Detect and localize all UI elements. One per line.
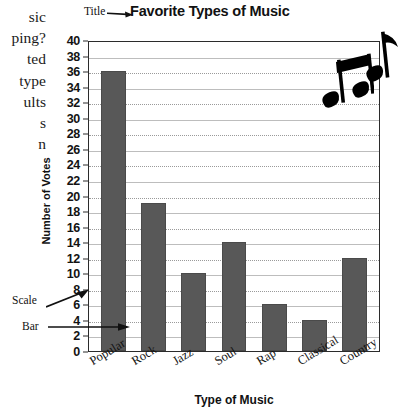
- y-tick-label: 24: [67, 158, 80, 172]
- arrow-up-right-icon: [46, 288, 90, 310]
- x-axis-category-labels: PopularRockJazzSoulRapClassicalCountry: [88, 352, 380, 396]
- title-callout-label: Title: [84, 5, 105, 17]
- y-tick-label: 34: [67, 81, 80, 95]
- y-tick-label: 30: [67, 112, 80, 126]
- bar-popular[interactable]: [101, 71, 126, 351]
- y-tick-label: 28: [67, 127, 80, 141]
- x-axis-title: Type of Music: [88, 393, 380, 407]
- y-tick-label: 10: [67, 267, 80, 281]
- bar-jazz[interactable]: [181, 273, 206, 351]
- y-tick-label: 20: [67, 190, 80, 204]
- bar-slot: [174, 42, 214, 351]
- bar-slot: [254, 42, 294, 351]
- y-tick-label: 18: [67, 205, 80, 219]
- y-tick-label: 14: [67, 236, 80, 250]
- bar-callout-label: Bar: [22, 320, 39, 332]
- bar-country[interactable]: [342, 258, 367, 351]
- bar-slot: [214, 42, 254, 351]
- y-tick-label: 38: [67, 50, 80, 64]
- eighth-note-icon: [366, 28, 399, 94]
- bar-soul[interactable]: [222, 242, 247, 351]
- y-tick-label: 36: [67, 65, 80, 79]
- bar-rock[interactable]: [141, 203, 166, 351]
- y-tick-label: 16: [67, 221, 80, 235]
- bar-rap[interactable]: [262, 304, 287, 351]
- y-tick-label: 0: [73, 345, 80, 359]
- scale-callout-label: Scale: [12, 294, 37, 306]
- y-tick-label: 40: [67, 34, 80, 48]
- arrow-right-icon: [48, 321, 130, 333]
- bar-slot: [133, 42, 173, 351]
- margin-text-line: sic: [0, 6, 46, 27]
- y-tick-label: 26: [67, 143, 80, 157]
- bar-slot: [93, 42, 133, 351]
- chart-title: Favorite Types of Music: [130, 3, 290, 19]
- y-tick-label: 12: [67, 252, 80, 266]
- y-tick-label: 32: [67, 96, 80, 110]
- y-tick-label: 22: [67, 174, 80, 188]
